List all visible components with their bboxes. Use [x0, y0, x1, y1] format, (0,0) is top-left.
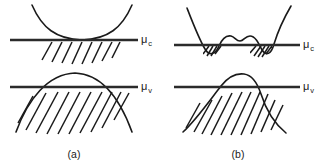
panel-a: μc: [10, 5, 152, 160]
panel-b-conduction-band: [187, 6, 291, 57]
panel-a-conduction-curve: [32, 5, 132, 40]
panel-a-valence-band: [16, 73, 132, 134]
panel-b-conduction-curve: [187, 6, 291, 54]
panel-b-valence-band: [183, 74, 286, 135]
panel-a-conduction-hatch: [42, 42, 120, 64]
hatch-lines: [42, 42, 120, 64]
panel-b-caption: (b): [232, 148, 245, 160]
panel-a-mu-c-label: μc: [141, 33, 152, 48]
panel-b-mu-v-label: μv: [303, 80, 314, 95]
panel-a-caption: (a): [68, 148, 81, 160]
hatch-lines: [18, 92, 129, 134]
panel-a-mu-v-label: μv: [141, 80, 152, 95]
band-diagram-figure: μc: [0, 0, 326, 168]
panel-b-mu-c-label: μc: [303, 38, 314, 53]
figure-canvas: μc: [0, 0, 326, 168]
panel-a-conduction-band: [32, 5, 132, 64]
panel-b: μc: [174, 6, 314, 160]
panel-a-valence-hatch: [18, 92, 129, 134]
